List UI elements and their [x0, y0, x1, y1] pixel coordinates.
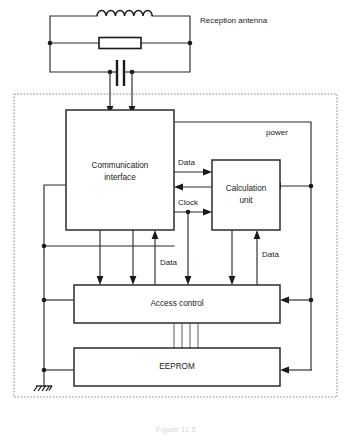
- antenna-node-left: [48, 41, 53, 46]
- ground-node-eeprom: [42, 368, 47, 373]
- cu-pin-down-arrow: [229, 276, 236, 285]
- power-arrow-eeprom: [280, 367, 289, 374]
- power-label: power: [266, 128, 288, 137]
- data-label-mid-left: Data: [160, 258, 177, 267]
- ci-pin2-arrow: [130, 276, 137, 285]
- data-arrow-ci-to-cu: [203, 169, 212, 176]
- communication-interface-label-line2: interface: [104, 173, 136, 182]
- ground-node-upper: [42, 244, 47, 249]
- ground-symbol-icon: [34, 386, 52, 391]
- antenna-node-right: [188, 41, 193, 46]
- clock-label: Clock: [178, 198, 199, 207]
- data-label-mid-right: Data: [262, 250, 279, 259]
- clock-arrow-ci-to-cu: [203, 209, 212, 216]
- communication-interface-label-line1: Communication: [92, 161, 149, 170]
- block-diagram: Reception antenna: [0, 0, 351, 436]
- resistor-symbol-icon: [99, 38, 141, 49]
- ci-pin1-arrow: [97, 276, 104, 285]
- power-arrow-access: [280, 297, 289, 304]
- data-label-top: Data: [178, 158, 195, 167]
- power-node-calculation: [309, 184, 314, 189]
- figure-canvas: Reception antenna: [0, 0, 351, 436]
- data-arrow-cu-to-ci: [174, 184, 183, 191]
- ground-node-access: [42, 298, 47, 303]
- ac-to-ci-arrow: [152, 230, 159, 239]
- power-node-access: [309, 298, 314, 303]
- clock-arrow-to-access: [185, 276, 192, 285]
- reception-antenna-label: Reception antenna: [200, 16, 268, 25]
- ac-to-cu-arrow: [254, 230, 261, 239]
- access-control-label: Access control: [150, 299, 203, 308]
- antenna-circuit: Reception antenna: [48, 11, 268, 115]
- eeprom-label: EEPROM: [159, 362, 195, 371]
- antenna-top-left-wire: [50, 16, 97, 43]
- block-calculation-unit[interactable]: [212, 160, 280, 230]
- calculation-unit-label-line2: unit: [239, 196, 253, 205]
- functional-blocks: Communication interface Calculation unit…: [66, 110, 280, 386]
- calculation-unit-label-line1: Calculation: [226, 184, 267, 193]
- antenna-top-right-wire: [152, 16, 190, 43]
- inductor-coil-icon: [97, 11, 152, 16]
- figure-caption: Figure 11.5: [156, 425, 196, 434]
- ground-bus-rail: [44, 185, 66, 386]
